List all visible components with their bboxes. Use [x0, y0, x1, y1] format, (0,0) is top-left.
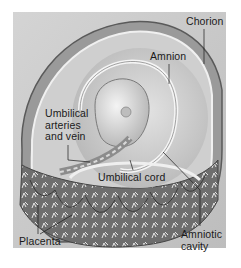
label-umbilical-cord: Umbilical cord: [98, 172, 165, 184]
label-amnion: Amnion: [150, 51, 186, 63]
embryo-eye: [121, 107, 131, 117]
label-umbilical-arteries-and-vein: Umbilical arteries and vein: [45, 108, 89, 143]
label-placenta: Placenta: [19, 236, 61, 248]
label-chorion: Chorion: [186, 16, 223, 28]
label-amniotic-cavity: Amniotic cavity: [181, 229, 222, 252]
